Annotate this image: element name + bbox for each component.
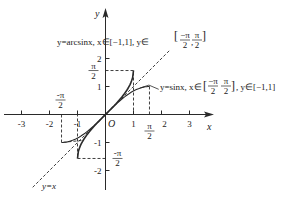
x-tick-label: -3	[18, 119, 26, 129]
y-axis-label: y	[94, 8, 100, 19]
bracket-right: ]	[202, 29, 206, 43]
bracket-left: [	[174, 29, 178, 43]
arcsin-range-hi-num: π	[195, 30, 200, 40]
y-tick-label: -2	[94, 166, 102, 176]
x-neg-pi-over-2-label-den: 2	[58, 100, 63, 110]
y-pi-over-2-label-den: 2	[91, 71, 96, 81]
comma: ,	[191, 37, 193, 47]
y-tick-label: -1	[94, 138, 102, 148]
y-neg-pi-over-2-label-den: 2	[115, 158, 120, 168]
arcsin-range-lo-num: −π	[180, 30, 190, 40]
x-pi-over-2-label-den: 2	[147, 131, 152, 141]
x-tick-label: 1	[131, 119, 136, 129]
x-neg-pi-over-2-label-num: -π	[57, 90, 65, 100]
sin-annotation: y=sinx, x∈	[160, 82, 202, 92]
x-tick-label: 2	[162, 119, 167, 129]
guide-arcsin-top	[106, 71, 134, 115]
guide-arcsin-bottom	[78, 115, 106, 159]
function-graph: xyO-3-2-112321-1-2π2π2-π2-π2y=arcsinx, x…	[0, 0, 290, 199]
y-tick-label: 2	[97, 54, 102, 64]
y-tick-label: 1	[97, 82, 102, 92]
x-tick-label: 3	[187, 119, 192, 129]
arcsin-annotation: y=arcsinx, x∈[−1,1], y∈	[57, 37, 149, 47]
sin-domain-hi-den: 2	[224, 86, 229, 96]
sin-range: , y∈[−1,1]	[236, 82, 275, 92]
sin-domain-lo-den: 2	[211, 86, 216, 96]
x-pi-over-2-label-num: π	[147, 121, 152, 131]
y-pi-over-2-label-num: π	[91, 61, 96, 71]
bracket-right: ]	[231, 79, 235, 93]
y-equals-x-label: y=x	[41, 181, 56, 191]
arcsin-range-lo-den: 2	[183, 40, 188, 50]
x-tick-label: -2	[46, 119, 54, 129]
origin-label: O	[108, 118, 115, 129]
x-axis-label: x	[206, 121, 212, 132]
sin-domain-hi-num: π	[224, 76, 229, 86]
plot-canvas: xyO-3-2-112321-1-2π2π2-π2-π2y=arcsinx, x…	[0, 0, 290, 199]
bracket-left: [	[203, 79, 207, 93]
arcsin-range-hi-den: 2	[195, 40, 200, 50]
sin-domain-lo-num: −π	[208, 76, 218, 86]
y-neg-pi-over-2-label-num: -π	[114, 148, 122, 158]
